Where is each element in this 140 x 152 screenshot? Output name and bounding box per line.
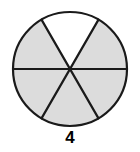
figure-number-label: 4 <box>0 128 140 148</box>
fraction-circle-figure: 4 <box>0 0 140 152</box>
